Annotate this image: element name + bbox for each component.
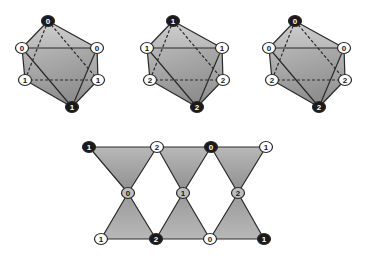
vertex-bottom: 2	[313, 102, 326, 113]
vertex-label: 0	[46, 17, 51, 26]
vertex-label: 1	[220, 44, 225, 53]
chain-middle-node: 0	[122, 188, 135, 199]
diagram-canvas: 000111111222000222 12010121201	[0, 0, 375, 260]
vertex-label: 0	[267, 44, 272, 53]
vertex-upper-left: 0	[263, 43, 276, 54]
upper-triangle	[211, 147, 266, 193]
vertex-upper-left: 0	[16, 43, 29, 54]
vertex-bottom: 2	[191, 102, 204, 113]
vertex-upper-right: 0	[338, 43, 351, 54]
vertex-label: 1	[96, 76, 101, 85]
vertex-label: 2	[221, 76, 226, 85]
vertex-label: 1	[181, 189, 186, 198]
vertex-label: 2	[317, 103, 322, 112]
vertex-label: 0	[342, 44, 347, 53]
chain-top-node: 0	[205, 142, 218, 153]
vertex-label: 2	[154, 235, 159, 244]
chain-bottom-node: 1	[95, 234, 108, 245]
chain-bottom-node: 1	[258, 234, 271, 245]
vertex-upper-right: 1	[216, 43, 229, 54]
vertex-label: 1	[264, 143, 269, 152]
vertex-label: 1	[87, 143, 92, 152]
vertex-label: 1	[262, 235, 267, 244]
octahedron-3: 000222	[263, 16, 352, 113]
vertex-label: 1	[171, 17, 176, 26]
vertex-upper-left: 1	[141, 43, 154, 54]
vertex-top: 0	[289, 16, 302, 27]
vertex-bottom: 1	[66, 102, 79, 113]
vertex-upper-right: 0	[91, 43, 104, 54]
vertex-label: 2	[195, 103, 200, 112]
vertex-lower-right: 2	[217, 75, 230, 86]
chain-top-node: 1	[260, 142, 273, 153]
chain-top-node: 2	[151, 142, 164, 153]
vertex-label: 0	[293, 17, 298, 26]
vertex-label: 0	[95, 44, 100, 53]
octahedra-group: 000111111222000222	[16, 16, 352, 113]
chain-bottom-node: 2	[150, 234, 163, 245]
vertex-label: 2	[148, 76, 153, 85]
vertex-lower-left: 2	[266, 75, 279, 86]
vertex-lower-left: 2	[144, 75, 157, 86]
lower-triangle	[210, 193, 264, 239]
vertex-label: 0	[20, 44, 25, 53]
vertex-lower-right: 1	[92, 75, 105, 86]
vertex-label: 1	[99, 235, 104, 244]
bowtie-chain-group: 12010121201	[83, 142, 273, 245]
lower-triangle	[101, 193, 156, 239]
octahedron-2: 111222	[141, 16, 230, 113]
vertex-top: 1	[167, 16, 180, 27]
vertex-label: 2	[270, 76, 275, 85]
vertex-label: 0	[209, 143, 214, 152]
vertex-label: 1	[145, 44, 150, 53]
upper-triangle	[89, 147, 157, 193]
chain-bottom-node: 0	[204, 234, 217, 245]
vertex-label: 2	[236, 189, 241, 198]
vertex-top: 0	[42, 16, 55, 27]
vertex-lower-left: 1	[19, 75, 32, 86]
vertex-label: 0	[126, 189, 131, 198]
vertex-label: 1	[23, 76, 28, 85]
chain-middle-node: 1	[177, 188, 190, 199]
bowtie-chain: 12010121201	[83, 142, 273, 245]
octahedron-1: 000111	[16, 16, 105, 113]
vertex-lower-right: 2	[339, 75, 352, 86]
upper-triangle	[157, 147, 211, 193]
chain-middle-node: 2	[232, 188, 245, 199]
vertex-label: 1	[70, 103, 75, 112]
vertex-label: 0	[208, 235, 213, 244]
chain-top-node: 1	[83, 142, 96, 153]
vertex-label: 2	[155, 143, 160, 152]
lower-triangle	[156, 193, 210, 239]
vertex-label: 2	[343, 76, 348, 85]
